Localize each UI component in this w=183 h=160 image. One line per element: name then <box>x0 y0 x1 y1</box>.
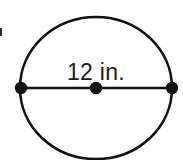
geometry-diagram-canvas: 12 in. <box>0 0 183 160</box>
right-endpoint-dot <box>166 82 178 94</box>
left-endpoint-dot <box>15 82 27 94</box>
circle-diameter-figure: 12 in. <box>0 0 183 160</box>
scan-artifact-mark <box>0 28 2 36</box>
diameter-label: 12 in. <box>67 59 125 85</box>
